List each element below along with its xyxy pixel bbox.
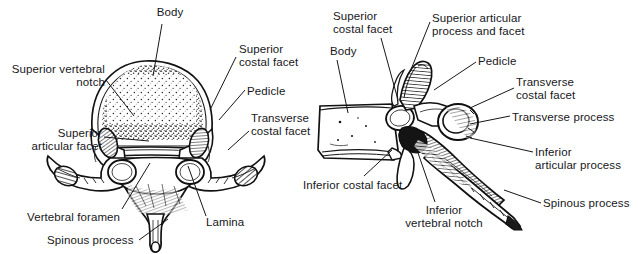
leader-transverse-costal-facet xyxy=(228,131,249,150)
leader-superior-costal-facet xyxy=(210,57,236,110)
leader-pedicle xyxy=(219,90,245,120)
label-superior-vertebral-notch: Superior vertebral notch xyxy=(2,63,105,89)
label-superior-costal-facet: Superior costal facet xyxy=(239,43,324,69)
leader-pedicle-lat xyxy=(434,62,476,90)
label-inferior-costal-facet: Inferior costal facet xyxy=(303,179,421,192)
label-transverse-costal-facet-lat: Transverse costal facet xyxy=(516,76,601,102)
label-inferior-articular-process: Inferior articular process xyxy=(535,146,633,172)
label-pedicle-lat: Pedicle xyxy=(478,55,538,68)
label-transverse-costal-facet: Transverse costal facet xyxy=(251,112,336,138)
label-superior-costal-facet-lat: Superior costal facet xyxy=(333,10,418,36)
label-vertebral-foramen: Vertebral foramen xyxy=(27,211,137,224)
leader-superior-costal-facet-lat xyxy=(381,38,398,100)
label-spinous-process-sup: Spinous process xyxy=(47,234,147,247)
label-pedicle: Pedicle xyxy=(247,85,307,98)
label-superior-articular-facet: Superior articular facet xyxy=(8,127,102,153)
label-inferior-vertebral-notch: Inferior vertebral notch xyxy=(398,204,490,230)
leader-inferior-articular-process xyxy=(470,138,533,152)
anatomy-figure: BodySuperior vertebral notchSuperior cos… xyxy=(0,0,639,254)
label-body: Body xyxy=(150,6,190,19)
leader-spinous-process-lat xyxy=(504,190,541,203)
label-spinous-process-lat: Spinous process xyxy=(543,197,638,210)
label-superior-articular-process: Superior articular process and facet xyxy=(432,12,544,38)
label-body-lat: Body xyxy=(330,45,370,58)
leader-transverse-costal-facet-lat xyxy=(470,88,514,108)
label-lamina: Lamina xyxy=(206,216,261,229)
label-transverse-process: Transverse process xyxy=(512,111,632,124)
